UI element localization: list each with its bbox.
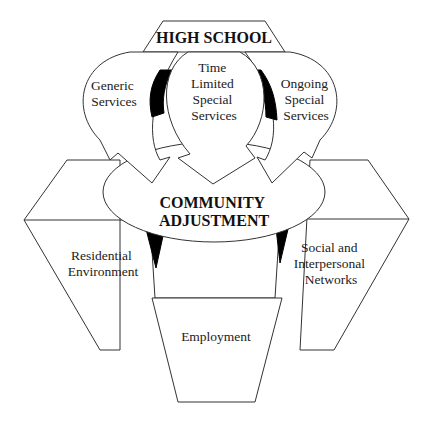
employment-shape <box>152 298 282 402</box>
employment-label: Employment <box>181 329 251 344</box>
community-adjustment-label: COMMUNITY ADJUSTMENT <box>159 194 270 229</box>
high-school-label: HIGH SCHOOL <box>156 29 272 46</box>
residential-environment-label: Residential Environment <box>68 248 139 279</box>
transition-model-diagram: HIGH SCHOOL Generic Services Time Limite… <box>0 0 430 426</box>
generic-services-label: Generic Services <box>91 78 137 109</box>
social-networks-label: Social and Interpersonal Networks <box>294 240 369 287</box>
ongoing-services-label: Ongoing Special Services <box>281 76 332 123</box>
